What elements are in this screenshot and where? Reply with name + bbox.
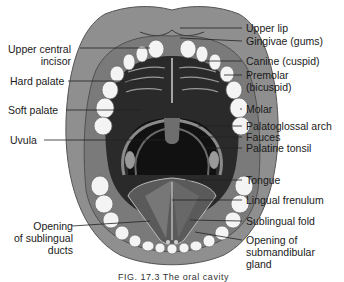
label-molar: Molar — [246, 103, 272, 115]
label-text: Opening — [14, 220, 73, 232]
label-canine: Canine (cuspid) — [246, 55, 320, 67]
label-text: Premolar — [246, 69, 292, 81]
label-gingivae: Gingivae (gums) — [246, 35, 323, 47]
label-opening-sublingual-ducts: Opening of sublingual ducts — [14, 220, 73, 256]
figure-caption: FIG. 17.3 The oral cavity — [118, 272, 229, 282]
label-upper-central-incisor: Upper central incisor — [8, 43, 71, 67]
label-text: Opening of — [246, 234, 315, 246]
label-text: (bicuspid) — [246, 81, 292, 93]
palatine-tonsil-right — [209, 151, 219, 169]
label-text: of sublingual — [14, 232, 73, 244]
label-text: gland — [246, 258, 315, 270]
label-text: incisor — [8, 55, 71, 67]
label-text: ducts — [14, 244, 73, 256]
label-text: Upper central — [8, 43, 71, 55]
label-upper-lip: Upper lip — [246, 22, 288, 34]
label-sublingual-fold: Sublingual fold — [246, 215, 315, 227]
label-premolar: Premolar (bicuspid) — [246, 69, 292, 93]
label-opening-submandibular-gland: Opening of submandibular gland — [246, 234, 315, 270]
label-tongue: Tongue — [246, 174, 280, 186]
label-text: submandibular — [246, 246, 315, 258]
label-hard-palate: Hard palate — [10, 75, 64, 87]
label-soft-palate: Soft palate — [8, 104, 58, 116]
label-palatine-tonsil: Palatine tonsil — [246, 142, 311, 154]
uvula — [164, 118, 180, 144]
label-uvula: Uvula — [10, 134, 37, 146]
label-lingual-frenulum: Lingual frenulum — [246, 194, 324, 206]
palatine-tonsil-left — [125, 151, 135, 169]
